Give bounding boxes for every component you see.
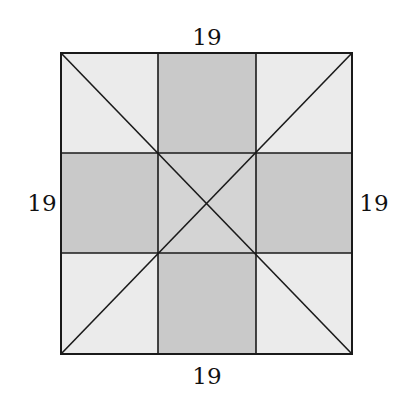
cell-middle-right <box>256 153 352 253</box>
label-left: 19 <box>27 190 56 216</box>
label-right: 19 <box>359 190 388 216</box>
cell-top-middle <box>158 53 256 153</box>
label-top: 19 <box>192 24 221 50</box>
label-bottom: 19 <box>192 363 221 389</box>
quilt-square-diagram: 19 19 19 19 <box>0 0 412 407</box>
cell-bottom-middle <box>158 253 256 354</box>
cell-middle-left <box>61 153 158 253</box>
